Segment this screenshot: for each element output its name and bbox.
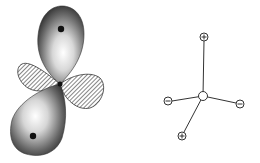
shaded-lobe-bottom bbox=[11, 84, 66, 155]
charge-node-top bbox=[200, 33, 208, 41]
figure-canvas bbox=[0, 0, 260, 163]
charge-node-left bbox=[164, 97, 172, 105]
hatched-lobe-right bbox=[60, 74, 104, 108]
tetrahedral-charges-panel bbox=[164, 33, 244, 140]
charge-node-bottom bbox=[178, 132, 186, 140]
center-atom bbox=[199, 92, 208, 101]
charge-node-right bbox=[236, 100, 244, 108]
central-node-dot bbox=[58, 82, 63, 87]
nucleus-dot-bottom bbox=[30, 133, 36, 139]
nucleus-dot-top bbox=[58, 26, 64, 32]
orbital-lobes-panel bbox=[11, 6, 104, 155]
